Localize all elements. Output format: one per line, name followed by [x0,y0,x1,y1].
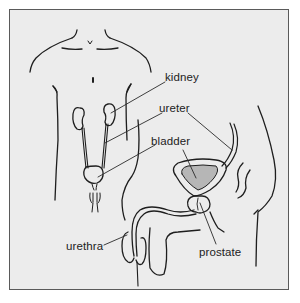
label-kidney: kidney [165,72,199,84]
label-urethra: urethra [66,241,103,253]
label-prostate: prostate [199,247,241,259]
leader-ureter-side [188,113,232,150]
side-ureter [222,123,238,168]
leader-urethra [104,235,127,245]
front-ureters [82,124,108,168]
front-kidneys [73,104,115,130]
anatomy-illustration [0,0,300,303]
label-ureter: ureter [159,103,190,115]
leader-bladder-front [98,145,155,177]
front-bladder [84,166,103,212]
label-bladder: bladder [151,136,190,148]
side-bladder [173,159,226,196]
leader-kidney [111,82,165,113]
